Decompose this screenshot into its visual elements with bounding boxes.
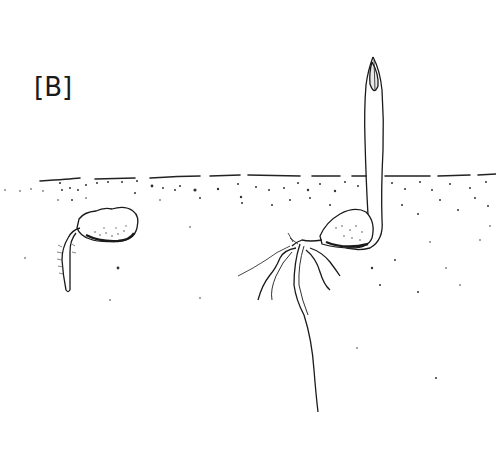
sprouting-seed	[57, 207, 138, 291]
soil-surface-line	[40, 174, 496, 181]
drawing	[0, 0, 496, 453]
germination-illustration: [B]	[0, 0, 496, 453]
soil-speckles	[4, 180, 491, 379]
seedling	[238, 57, 383, 412]
